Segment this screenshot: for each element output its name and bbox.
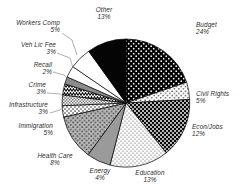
pie-label-budget-pct: 24% (196, 28, 240, 35)
pie-label-education-pct: 13% (126, 176, 174, 183)
pie-label-recall-name: Recall (34, 61, 52, 68)
pie-label-energy-pct: 4% (80, 174, 120, 181)
pie-label-health-care-name: Health Care (37, 152, 72, 159)
pie-label-veh-lic-fee-name: Veh Lic Fee (21, 41, 56, 48)
pie-label-immigration-name: Immigration (19, 122, 53, 129)
pie-label-econ-jobs-name: Econ/Jobs (192, 123, 223, 130)
pie-label-health-care: Health Care 8% (31, 152, 79, 167)
pie-label-other-name: Other (96, 6, 112, 13)
pie-label-infrastructure-name: Infrastructure (9, 101, 48, 108)
pie-label-energy: Energy 4% (80, 167, 120, 182)
pie-label-econ-jobs-pct: 12% (192, 130, 242, 137)
pie-label-other: Other 13% (78, 6, 130, 21)
pie-label-crime: Crime 3% (8, 81, 46, 96)
pie-label-other-pct: 13% (78, 13, 130, 20)
pie-slices (62, 39, 190, 167)
pie-label-civil-rights: Civil Rights 5% (196, 90, 246, 105)
pie-label-crime-name: Crime (28, 81, 46, 88)
pie-label-immigration: Immigration 5% (3, 122, 53, 137)
pie-label-civil-rights-pct: 5% (196, 97, 246, 104)
pie-label-infrastructure-pct: 3% (0, 108, 48, 115)
pie-label-education: Education 13% (126, 169, 174, 184)
pie-label-civil-rights-name: Civil Rights (196, 90, 229, 97)
pie-label-workers-comp-pct: 5% (2, 26, 60, 33)
pie-label-infrastructure: Infrastructure 3% (0, 101, 48, 116)
pie-label-econ-jobs: Econ/Jobs 12% (192, 123, 242, 138)
pie-label-budget-name: Budget (196, 21, 217, 28)
pie-label-recall-pct: 2% (10, 68, 52, 75)
pie-label-energy-name: Energy (90, 167, 111, 174)
pie-label-workers-comp-name: Workers Comp (16, 19, 60, 26)
pie-label-health-care-pct: 8% (31, 159, 79, 166)
pie-label-education-name: Education (135, 169, 164, 176)
pie-label-veh-lic-fee-pct: 3% (4, 48, 56, 55)
pie-label-immigration-pct: 5% (3, 129, 53, 136)
pie-label-workers-comp: Workers Comp 5% (2, 19, 60, 34)
pie-label-veh-lic-fee: Veh Lic Fee 3% (4, 41, 56, 56)
pie-label-budget: Budget 24% (196, 21, 240, 36)
pie-chart-figure: Other 13% Workers Comp 5% Veh Lic Fee 3%… (0, 0, 247, 194)
pie-label-crime-pct: 3% (8, 88, 46, 95)
pie-label-recall: Recall 2% (10, 61, 52, 76)
